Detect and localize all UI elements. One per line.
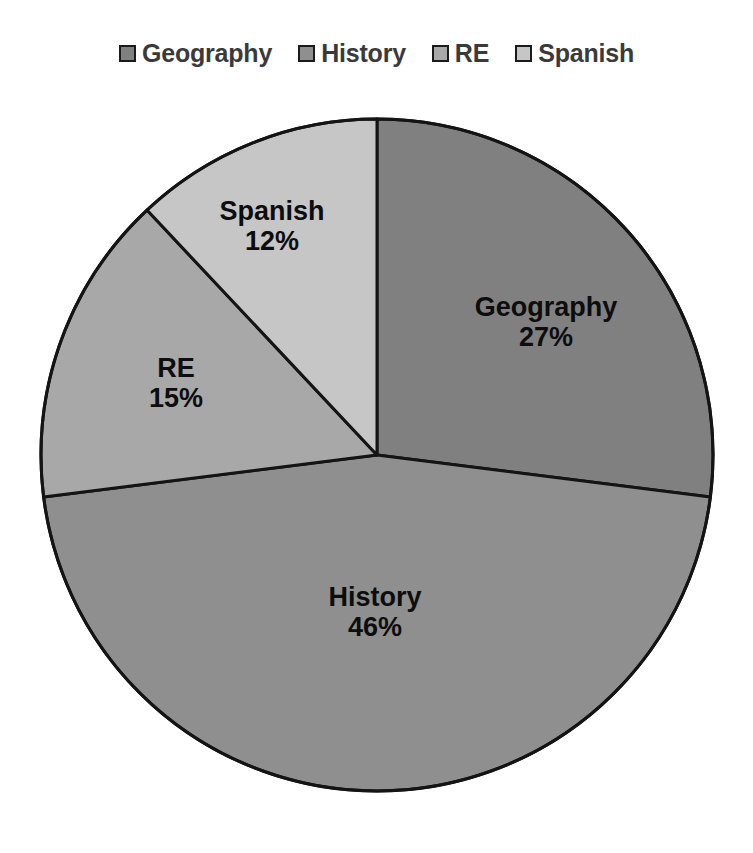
pie-slice-history[interactable] — [44, 455, 711, 791]
pie-plot-area: Geography 27% History 46% RE 15% Spanish… — [0, 0, 753, 853]
pie-chart: Geography History RE Spanish Geography 2… — [0, 0, 753, 853]
pie-slices — [41, 119, 713, 791]
pie-slice-geography[interactable] — [377, 119, 713, 497]
pie-svg — [0, 0, 753, 853]
